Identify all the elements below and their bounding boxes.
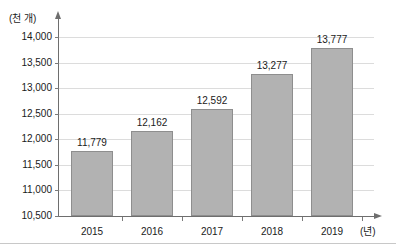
x-axis-label-2018: 2018 — [247, 226, 297, 237]
chart-screenshot: (천 개) 14,00013,50013,00012,50012,00011,5… — [0, 0, 396, 249]
y-axis-tick-label: 11,000 — [6, 185, 52, 195]
bar-2017 — [191, 109, 233, 216]
bottom-divider — [0, 243, 396, 244]
x-axis-label-2015: 2015 — [67, 226, 117, 237]
bar-value-label-2015: 11,779 — [62, 138, 122, 148]
bar-2015 — [71, 151, 113, 216]
cutoff-title-fragment — [150, 0, 250, 4]
bar-2019 — [311, 48, 353, 216]
y-axis-tick-label: 12,000 — [6, 134, 52, 144]
x-axis-tick-mark — [122, 217, 123, 221]
y-axis-tick-mark — [55, 63, 59, 64]
y-axis-tick-label: 14,000 — [6, 32, 52, 42]
y-axis-tick-label: 12,500 — [6, 109, 52, 119]
x-axis-label-2017: 2017 — [187, 226, 237, 237]
y-axis-tick-mark — [55, 139, 59, 140]
y-axis-tick-mark — [55, 216, 59, 217]
bar-value-label-2016: 12,162 — [122, 118, 182, 128]
y-axis-tick-mark — [55, 88, 59, 89]
y-axis-line — [58, 18, 59, 217]
y-axis-arrow-icon — [55, 11, 61, 19]
x-axis-label-2016: 2016 — [127, 226, 177, 237]
y-axis-tick-mark — [55, 37, 59, 38]
y-axis-tick-label: 13,500 — [6, 58, 52, 68]
bar-value-label-2019: 13,777 — [302, 35, 362, 45]
x-axis-unit-label: (년) — [360, 226, 376, 237]
x-axis-arrow-icon — [374, 213, 382, 219]
bar-value-label-2018: 13,277 — [242, 61, 302, 71]
x-axis-tick-mark — [302, 217, 303, 221]
y-axis-tick-label: 11,500 — [6, 160, 52, 170]
x-axis-tick-mark — [182, 217, 183, 221]
x-axis-label-2019: 2019 — [307, 226, 357, 237]
x-axis-tick-mark — [362, 217, 363, 221]
x-axis-line — [58, 216, 376, 217]
bar-value-label-2017: 12,592 — [182, 96, 242, 106]
x-axis-tick-mark — [242, 217, 243, 221]
y-axis-tick-mark — [55, 165, 59, 166]
y-axis-tick-mark — [55, 190, 59, 191]
bar-2016 — [131, 131, 173, 216]
y-axis-tick-label: 10,500 — [6, 211, 52, 221]
y-axis-tick-mark — [55, 114, 59, 115]
y-axis-unit-label: (천 개) — [9, 13, 36, 25]
bar-2018 — [251, 74, 293, 216]
y-axis-tick-label: 13,000 — [6, 83, 52, 93]
